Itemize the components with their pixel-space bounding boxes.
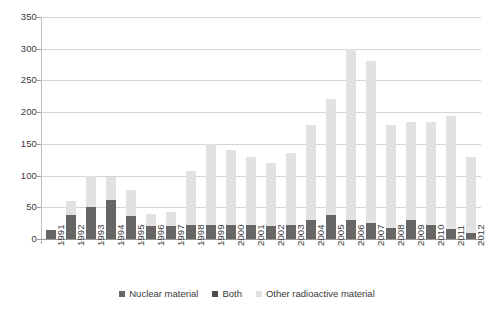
bar-segment	[126, 190, 136, 215]
bar-segment	[446, 116, 456, 229]
bar-segment	[286, 153, 296, 225]
legend-item[interactable]: Nuclear material	[119, 288, 198, 299]
legend-label: Both	[222, 288, 242, 299]
y-axis-tick-label: 0	[3, 234, 37, 244]
x-axis-tick-mark	[481, 241, 482, 244]
x-axis-tick-mark	[341, 241, 342, 244]
x-axis-tick-mark	[321, 241, 322, 244]
bar-group	[346, 49, 356, 239]
bar-segment	[266, 163, 276, 226]
x-axis-tick-mark	[261, 241, 262, 244]
bar-group	[426, 122, 436, 239]
y-axis-tick-label: 350	[3, 12, 37, 22]
bar-segment	[226, 150, 236, 225]
x-axis-tick-mark	[221, 241, 222, 244]
bar-group	[406, 122, 416, 239]
bar-group	[306, 125, 316, 239]
y-axis-tick-label: 200	[3, 107, 37, 117]
legend-label: Other radioactive material	[266, 288, 375, 299]
bar-segment	[206, 144, 216, 225]
x-axis: 1991199219931994199519961997199819992000…	[41, 241, 481, 287]
bar-segment	[406, 122, 416, 220]
bar-segment	[346, 49, 356, 220]
bar-segment	[386, 125, 396, 228]
bar-segment	[306, 125, 316, 220]
x-axis-tick-mark	[281, 241, 282, 244]
bar-series-container	[41, 17, 481, 239]
bar-group	[386, 125, 396, 239]
x-axis-tick-mark	[301, 241, 302, 244]
x-axis-tick-mark	[61, 241, 62, 244]
legend-item[interactable]: Other radioactive material	[256, 288, 375, 299]
y-axis-tick-label: 50	[3, 202, 37, 212]
bar-segment	[326, 99, 336, 215]
x-axis-tick-mark	[181, 241, 182, 244]
stacked-bar-chart: 050100150200250300350 199119921993199419…	[0, 0, 494, 310]
bar-segment	[466, 157, 476, 233]
x-axis-tick-mark	[41, 241, 42, 244]
bar-segment	[246, 157, 256, 226]
x-axis-tick-mark	[441, 241, 442, 244]
bar-segment	[106, 177, 116, 200]
chart-legend: Nuclear materialBothOther radioactive ma…	[0, 288, 494, 299]
bar-segment	[66, 201, 76, 215]
bar-segment	[366, 61, 376, 223]
legend-label: Nuclear material	[129, 288, 198, 299]
legend-item[interactable]: Both	[212, 288, 242, 299]
bar-group	[366, 61, 376, 239]
y-axis-tick-label: 300	[3, 44, 37, 54]
x-axis-tick-mark	[421, 241, 422, 244]
y-axis-tick-label: 250	[3, 75, 37, 85]
bar-segment	[426, 122, 436, 225]
y-axis: 050100150200250300350	[0, 0, 37, 310]
x-axis-tick-mark	[141, 241, 142, 244]
legend-swatch-icon	[212, 291, 218, 297]
x-axis-tick-mark	[101, 241, 102, 244]
x-axis-tick-mark	[201, 241, 202, 244]
x-axis-tick-mark	[401, 241, 402, 244]
x-axis-tick-mark	[81, 241, 82, 244]
bar-group	[326, 99, 336, 239]
x-axis-tick-mark	[461, 241, 462, 244]
legend-swatch-icon	[119, 291, 125, 297]
bar-group	[446, 116, 456, 239]
legend-swatch-icon	[256, 291, 262, 297]
y-axis-tick-label: 100	[3, 171, 37, 181]
x-axis-tick-mark	[121, 241, 122, 244]
bar-segment	[186, 171, 196, 225]
x-axis-tick-mark	[381, 241, 382, 244]
x-axis-tick-mark	[161, 241, 162, 244]
bar-segment	[86, 176, 96, 208]
x-axis-tick-mark	[241, 241, 242, 244]
x-axis-tick-mark	[361, 241, 362, 244]
y-axis-tick-label: 150	[3, 139, 37, 149]
